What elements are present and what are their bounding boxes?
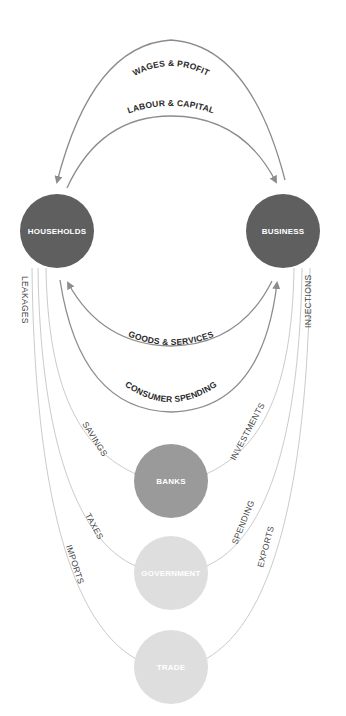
trade-node: TRADE bbox=[134, 630, 208, 704]
exports-line bbox=[204, 268, 310, 660]
leakages-label: LEAKAGES bbox=[20, 276, 30, 324]
leakage-lines bbox=[32, 268, 138, 660]
business-label: BUSINESS bbox=[262, 227, 305, 236]
circular-flow-diagram: WAGES & PROFIT LABOUR & CAPITAL GOODS & … bbox=[0, 0, 346, 716]
banks-node: BANKS bbox=[134, 444, 208, 518]
labour-capital-label: LABOUR & CAPITAL bbox=[126, 98, 216, 115]
injection-lines bbox=[204, 268, 310, 660]
banks-label: BANKS bbox=[156, 477, 186, 486]
goods-services-arrow bbox=[68, 281, 272, 346]
households-node: HOUSEHOLDS bbox=[20, 194, 94, 268]
consumer-spending-label: CONSUMER SPENDING bbox=[124, 379, 219, 404]
government-node: GOVERNMENT bbox=[134, 536, 208, 610]
households-label: HOUSEHOLDS bbox=[28, 227, 87, 236]
taxes-label: TAXES bbox=[83, 511, 105, 541]
imports-label: IMPORTS bbox=[64, 544, 86, 586]
wages-profit-label: WAGES & PROFIT bbox=[131, 58, 212, 78]
business-node: BUSINESS bbox=[246, 194, 320, 268]
investments-label: INVESTMENTS bbox=[228, 401, 267, 462]
trade-label: TRADE bbox=[157, 663, 186, 672]
labour-capital-arrow bbox=[67, 116, 276, 188]
savings-label: SAVINGS bbox=[80, 420, 109, 459]
goods-services-label: GOODS & SERVICES bbox=[127, 329, 215, 347]
spending-label: SPENDING bbox=[230, 499, 257, 546]
injections-label: INJECTIONS bbox=[303, 274, 313, 328]
government-label: GOVERNMENT bbox=[141, 569, 200, 578]
imports-line bbox=[32, 268, 138, 660]
